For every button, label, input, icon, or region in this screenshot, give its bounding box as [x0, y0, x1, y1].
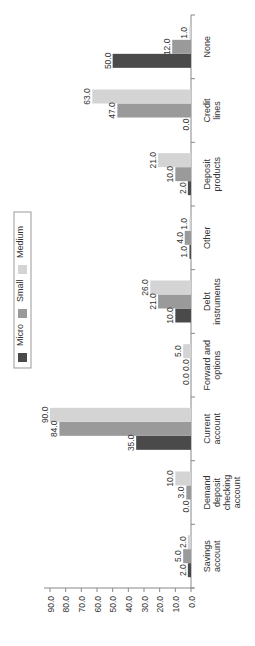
value-label: 0.0: [181, 118, 191, 130]
category-label: account: [212, 540, 222, 572]
value-label: 4.0: [175, 232, 185, 244]
value-label: 90.0: [40, 406, 50, 423]
category-label: options: [212, 350, 222, 380]
legend-label: Small: [15, 279, 25, 302]
bar-medium: [92, 90, 191, 104]
value-label: 0.0: [181, 373, 191, 385]
bar-micro: [175, 309, 191, 323]
value-label: 0.0: [181, 359, 191, 371]
category-label: Credit: [202, 98, 212, 123]
legend-label: Micro: [15, 324, 25, 346]
bar-micro: [136, 436, 191, 450]
value-label: 0.0: [181, 500, 191, 512]
bar-small: [172, 40, 191, 54]
bar-small: [175, 167, 191, 181]
value-label: 5.0: [173, 345, 183, 357]
value-label: 10.0: [165, 166, 175, 183]
value-tick-label: 30.0: [140, 596, 150, 613]
value-label: 3.0: [176, 486, 186, 498]
bar-small: [185, 231, 191, 245]
bar-medium: [50, 408, 191, 422]
bar-medium: [175, 472, 191, 486]
legend-swatch-medium: [18, 265, 27, 274]
bar-small: [117, 104, 191, 118]
value-tick-label: 50.0: [108, 596, 118, 613]
value-tick-label: 80.0: [61, 596, 71, 613]
category-label: checking: [222, 475, 232, 511]
value-label: 12.0: [162, 38, 172, 55]
value-tick-label: 60.0: [93, 596, 103, 613]
value-label: 26.0: [140, 279, 150, 296]
legend-label: Medium: [15, 226, 25, 258]
category-label: deposit: [212, 477, 222, 507]
bar-micro: [188, 563, 191, 577]
value-tick-label: 90.0: [46, 596, 56, 613]
category-label: Demand: [202, 475, 212, 509]
value-label: 5.0: [173, 550, 183, 562]
value-tick-label: 70.0: [77, 596, 87, 613]
category-label: account: [212, 413, 222, 445]
legend-swatch-micro: [18, 353, 27, 362]
bar-small: [59, 422, 191, 436]
value-label: 35.0: [126, 434, 136, 451]
value-label: 50.0: [103, 52, 113, 69]
value-label: 2.0: [178, 182, 188, 194]
category-label: Savings: [202, 540, 212, 573]
category-label: Current: [202, 413, 212, 444]
category-label: Debt: [202, 291, 212, 311]
value-label: 2.0: [178, 564, 188, 576]
value-label: 2.0: [178, 536, 188, 548]
bar-micro: [113, 54, 191, 68]
bar-micro: [188, 181, 191, 195]
bar-medium: [150, 281, 191, 295]
value-label: 21.0: [148, 152, 158, 169]
bar-small: [158, 295, 191, 309]
value-tick-label: 40.0: [124, 596, 134, 613]
category-label: account: [232, 476, 242, 508]
bar-medium: [188, 535, 191, 549]
bar-medium: [183, 344, 191, 358]
bar-small: [186, 486, 191, 500]
rotated-bar-chart: 0.010.020.030.040.050.060.070.080.090.0 …: [0, 0, 255, 646]
category-label: lines: [212, 101, 222, 120]
value-label: 84.0: [49, 420, 59, 437]
value-label: 47.0: [107, 102, 117, 119]
category-label: None: [202, 36, 212, 58]
category-label: products: [212, 156, 222, 191]
value-label: 10.0: [165, 470, 175, 487]
bar-medium: [189, 26, 191, 40]
legend-swatch-small: [18, 309, 27, 318]
value-label: 63.0: [82, 88, 92, 105]
value-label: 10.0: [165, 307, 175, 324]
value-tick-label: 20.0: [155, 596, 165, 613]
bar-small: [183, 549, 191, 563]
bar-micro: [189, 245, 191, 259]
bar-medium: [158, 153, 191, 167]
value-tick-label: 0.0: [187, 596, 197, 608]
bars: [50, 26, 191, 577]
category-label: Deposit: [202, 158, 212, 189]
value-label: 1.0: [179, 218, 189, 230]
value-tick-label: 10.0: [171, 596, 181, 613]
legend: MicroSmallMedium: [14, 212, 31, 368]
bar-medium: [189, 217, 191, 231]
category-label: Other: [202, 227, 212, 250]
category-labels: SavingsaccountDemanddepositcheckingaccou…: [202, 36, 242, 572]
category-label: instruments: [212, 278, 222, 325]
value-label: 1.0: [179, 246, 189, 258]
value-label: 1.0: [179, 27, 189, 39]
category-label: Forward and: [202, 340, 212, 391]
